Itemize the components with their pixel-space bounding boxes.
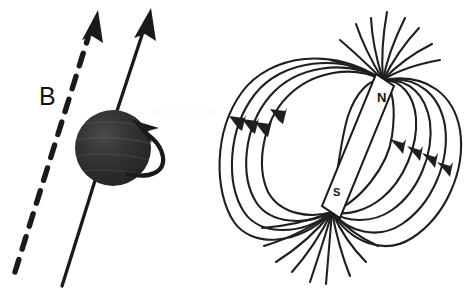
field-line-tails-north <box>330 12 440 80</box>
spinning-sphere-panel: B <box>15 8 163 286</box>
magnetic-field-arrowhead <box>82 10 103 43</box>
bar-magnet-field-panel: N S <box>220 12 462 284</box>
field-arrowhead <box>390 139 406 154</box>
south-pole-label: S <box>333 186 340 198</box>
figure-svg: •••••• B <box>0 0 472 296</box>
field-label-b: B <box>39 82 56 110</box>
watermark-text: •••••• <box>150 95 219 128</box>
figure-root: •••••• B <box>0 0 472 296</box>
north-pole-label: N <box>377 90 386 105</box>
spin-axis-arrowhead <box>134 8 156 41</box>
watermark: •••••• <box>150 95 219 128</box>
spin-axis-shaft-upper <box>113 35 142 123</box>
